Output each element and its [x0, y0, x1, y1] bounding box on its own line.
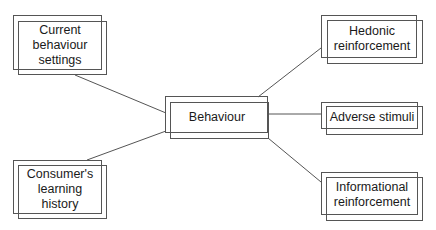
label-line: Adverse stimuli [330, 110, 415, 125]
label-line: history [42, 197, 79, 212]
edge-settings-to-behaviour [75, 75, 166, 113]
label-line: Behaviour [189, 110, 245, 125]
node-label: Current behaviour settings [13, 15, 107, 75]
edge-behaviour-to-hedonic [258, 48, 321, 97]
label-line: Informational [336, 180, 408, 195]
node-label: Behaviour [165, 96, 269, 139]
node-label: Hedonic reinforcement [321, 15, 423, 62]
label-line: Current [39, 23, 81, 38]
label-line: Consumer's [27, 167, 93, 182]
edge-history-to-behaviour [87, 131, 166, 160]
edge-behaviour-to-informational [268, 138, 321, 182]
node-label: Informational reinforcement [321, 172, 423, 218]
label-line: settings [38, 53, 81, 68]
label-line: Hedonic [349, 24, 395, 39]
label-line: behaviour [33, 38, 88, 53]
label-line: reinforcement [334, 39, 410, 54]
node-label: Adverse stimuli [321, 102, 423, 133]
node-label: Consumer's learning history [13, 160, 107, 219]
label-line: reinforcement [334, 195, 410, 210]
label-line: learning [38, 182, 82, 197]
